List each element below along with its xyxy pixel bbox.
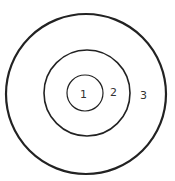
ring-2-circle	[44, 50, 130, 136]
ring-3-label: 3	[140, 89, 147, 102]
ring-1-label: 1	[80, 88, 87, 101]
ring-2-label: 2	[110, 86, 117, 99]
concentric-circles-diagram: 1 2 3	[0, 0, 175, 181]
